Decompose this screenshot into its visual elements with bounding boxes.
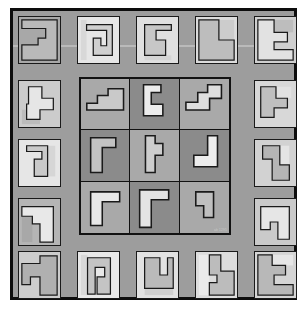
tile-shape-bottom-3 xyxy=(137,252,178,298)
polyomino-outline xyxy=(193,136,217,167)
border-tile-top-1 xyxy=(18,16,61,64)
polyomino-outline xyxy=(261,207,290,240)
tile-shape-top-4 xyxy=(196,17,237,63)
grid-cell-c-r3c3 xyxy=(180,182,229,233)
polyomino-outline xyxy=(22,256,57,295)
tile-shape-bottom-1 xyxy=(19,252,60,298)
border-tile-right-3 xyxy=(254,198,297,246)
grid-cell-c-r2c3 xyxy=(180,130,229,181)
tile-shape-left-2 xyxy=(19,140,60,186)
tile-shape-bottom-5 xyxy=(255,252,296,298)
tile-accent-region xyxy=(219,20,234,40)
tile-accent-region xyxy=(81,255,88,295)
cell-shape-hook-left xyxy=(130,79,178,129)
tile-accent-region xyxy=(199,255,209,295)
border-tile-top-5 xyxy=(254,16,297,64)
border-tile-bottom-1 xyxy=(18,251,61,299)
tile-shape-right-2 xyxy=(255,140,296,186)
tile-accent-region xyxy=(272,255,293,266)
polyomino-outline xyxy=(146,136,163,173)
grid-cell-c-r3c2 xyxy=(130,182,179,233)
polyomino-outline xyxy=(91,192,120,226)
tile-shape-bottom-4 xyxy=(196,252,237,298)
cell-shape-corner-L xyxy=(81,130,129,180)
polyomino-outline xyxy=(145,258,174,289)
tile-shape-right-1 xyxy=(255,81,296,127)
grid-cell-c-r1c1 xyxy=(81,79,130,130)
figure-root: ab 1295 xyxy=(0,0,307,313)
tile-accent-region xyxy=(48,146,56,177)
polyomino-outline xyxy=(209,255,234,295)
polyomino-outline xyxy=(186,85,222,110)
polyomino-outline xyxy=(27,146,48,177)
tile-accent-region xyxy=(145,55,172,60)
tile-accent-region xyxy=(280,146,290,165)
tile-shape-top-5 xyxy=(255,17,296,63)
border-tile-top-4 xyxy=(195,16,238,64)
border-tile-top-2 xyxy=(77,16,120,64)
tile-shape-top-1 xyxy=(19,17,60,63)
border-tile-bottom-5 xyxy=(254,251,297,299)
polyomino-outline xyxy=(27,87,54,120)
border-tile-left-3 xyxy=(18,198,61,246)
polyomino-outline xyxy=(91,138,116,173)
tile-accent-region xyxy=(22,216,32,242)
cell-shape-corner-L-tall xyxy=(130,182,178,233)
cell-shape-s-step xyxy=(180,79,229,129)
cell-shape-corner-L-wide xyxy=(81,182,129,233)
polyomino-outline xyxy=(22,20,57,60)
tile-shape-top-3 xyxy=(137,17,178,63)
border-tile-top-3 xyxy=(136,16,179,64)
tile-shape-left-3 xyxy=(19,199,60,245)
grid-cell-c-r2c1 xyxy=(81,130,130,181)
grid-cell-c-r1c2 xyxy=(130,79,179,130)
polyomino-outline xyxy=(195,192,213,218)
center-grid: ab 1295 xyxy=(79,77,231,235)
polyomino-outline xyxy=(87,25,113,56)
polyomino-outline xyxy=(88,258,111,294)
grid-cell-c-r2c2 xyxy=(130,130,179,181)
grid-cell-c-r1c3 xyxy=(180,79,229,130)
grid-cell-c-r3c1 xyxy=(81,182,130,233)
polyomino-outline xyxy=(140,190,169,228)
outer-frame: ab 1295 xyxy=(10,8,297,300)
polyomino-outline xyxy=(87,89,124,110)
border-tile-left-2 xyxy=(18,139,61,187)
tile-accent-region xyxy=(274,20,293,32)
cell-shape-small-hook xyxy=(180,182,229,233)
cell-shape-stepped-z xyxy=(81,79,129,129)
border-tile-bottom-4 xyxy=(195,251,238,299)
polyomino-outline xyxy=(145,25,172,56)
tile-accent-region xyxy=(276,87,291,99)
cell-shape-flag xyxy=(130,130,178,180)
tile-shape-right-3 xyxy=(255,199,296,245)
border-tile-left-1 xyxy=(18,80,61,128)
border-tile-bottom-2 xyxy=(77,251,120,299)
border-tile-right-2 xyxy=(254,139,297,187)
tile-shape-left-1 xyxy=(19,81,60,127)
cell-shape-J-hook xyxy=(180,130,229,180)
tile-shape-bottom-2 xyxy=(78,252,119,298)
polyomino-outline xyxy=(144,85,163,116)
tile-accent-region xyxy=(145,288,174,295)
tile-accent-region xyxy=(81,20,87,60)
border-tile-right-1 xyxy=(254,80,297,128)
border-tile-bottom-3 xyxy=(136,251,179,299)
tile-shape-top-2 xyxy=(78,17,119,63)
